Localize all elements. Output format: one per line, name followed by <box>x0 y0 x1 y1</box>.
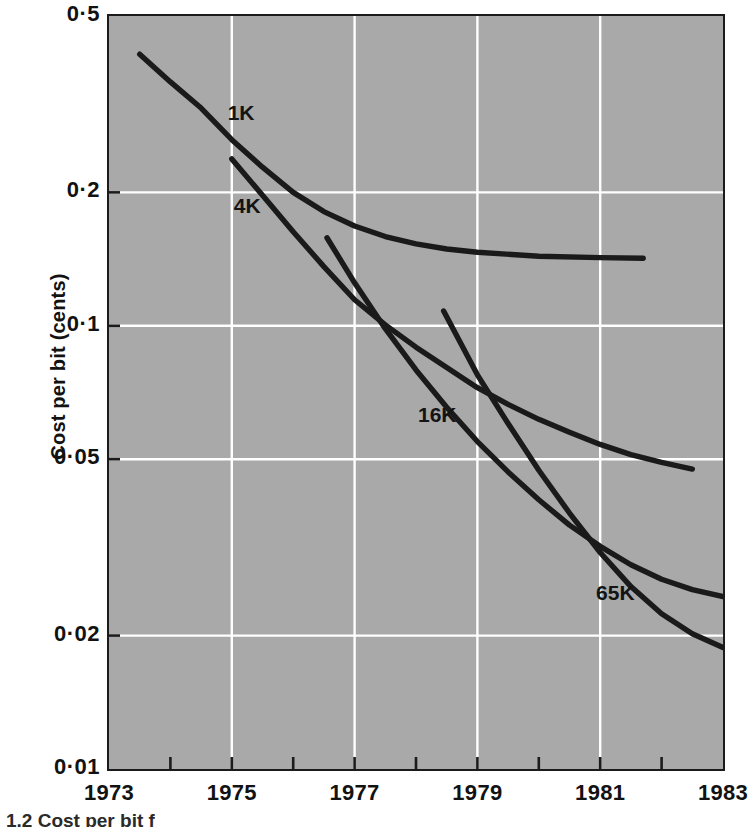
y-tick-label: 0·02 <box>4 621 100 647</box>
x-tick-label: 1981 <box>545 780 655 806</box>
series-line-16k <box>327 238 723 597</box>
y-axis-tick-labels: 0·010·020·050·10·20·5 <box>0 0 100 827</box>
x-tick-label: 1975 <box>177 780 287 806</box>
y-tick-label: 0·2 <box>4 177 100 203</box>
figure-caption: 1.2 Cost per bit f <box>6 810 155 827</box>
x-tick-label: 1973 <box>54 780 164 806</box>
series-line-1k <box>140 54 643 258</box>
x-tick-label: 1983 <box>668 780 751 806</box>
series-line-65k <box>444 311 723 648</box>
y-tick-label: 0·05 <box>4 444 100 470</box>
series-label-4k: 4K <box>234 194 261 218</box>
plot-svg <box>109 16 723 769</box>
x-tick-label: 1979 <box>422 780 532 806</box>
series-label-16k: 16K <box>418 403 457 427</box>
series-label-1k: 1K <box>228 101 255 125</box>
chart-figure: Cost per bit (cents) 0·010·020·050·10·20… <box>0 0 751 827</box>
series-label-65k: 65K <box>596 581 635 605</box>
plot-area: 1K4K16K65K <box>107 14 725 771</box>
y-tick-label: 0·01 <box>4 754 100 780</box>
y-tick-label: 0·1 <box>4 311 100 337</box>
x-tick-label: 1977 <box>300 780 410 806</box>
y-tick-label: 0·5 <box>4 1 100 27</box>
